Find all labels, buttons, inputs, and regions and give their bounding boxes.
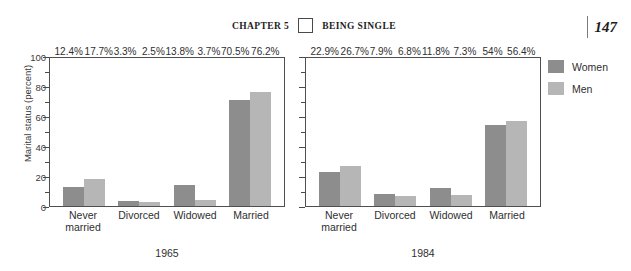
running-head: CHAPTER 5 BEING SINGLE 147 (0, 18, 631, 38)
bar-column: 3.7% (195, 58, 216, 206)
bar-women: 54% (485, 125, 506, 206)
folio-rule (587, 16, 588, 38)
bar-women: 13.8% (174, 185, 195, 206)
bar-value-label: 17.7% (85, 47, 113, 57)
y-tick-major (299, 207, 305, 208)
bar-value-label: 6.8% (398, 47, 421, 57)
chart-panel-1965: 12.4%17.7%3.3%2.5%13.8%3.7%70.5%76.2% (49, 57, 285, 207)
bar-men: 7.3% (451, 195, 472, 206)
bar-column: 7.9% (374, 58, 395, 206)
bar-women: 3.3% (118, 201, 139, 206)
category-label: Widowed (426, 209, 476, 243)
chapter-title: BEING SINGLE (322, 21, 396, 31)
bar-women: 12.4% (63, 187, 84, 206)
bar-value-label: 70.5% (221, 47, 249, 57)
year-label-1984: 1984 (305, 247, 541, 259)
bar-group: 11.8%7.3% (430, 58, 472, 206)
bar-column: 26.7% (340, 58, 361, 206)
bar-women: 70.5% (229, 100, 250, 206)
category-label: Nevermarried (314, 209, 364, 243)
bar-group: 12.4%17.7% (63, 58, 105, 206)
page-number: 147 (595, 19, 618, 36)
bar-value-label: 76.2% (251, 47, 279, 57)
bar-group: 70.5%76.2% (229, 58, 271, 206)
bar-column: 22.9% (319, 58, 340, 206)
category-labels-1965: NevermarriedDivorcedWidowedMarried (49, 209, 285, 243)
bar-women: 22.9% (319, 172, 340, 206)
bar-men: 26.7% (340, 166, 361, 206)
bar-column: 54% (485, 58, 506, 206)
bar-value-label: 2.5% (142, 47, 165, 57)
bar-women: 7.9% (374, 194, 395, 206)
bar-group: 3.3%2.5% (118, 58, 160, 206)
bar-column: 11.8% (430, 58, 451, 206)
chapter-label: CHAPTER 5 (232, 21, 289, 31)
bar-value-label: 22.9% (311, 47, 339, 57)
bar-value-label: 13.8% (166, 47, 194, 57)
bar-group: 22.9%26.7% (319, 58, 361, 206)
bar-group: 13.8%3.7% (174, 58, 216, 206)
year-label-1965: 1965 (49, 247, 285, 259)
bar-column: 2.5% (139, 58, 160, 206)
legend-label-men: Men (572, 83, 592, 95)
bar-group: 54%56.4% (485, 58, 527, 206)
category-label: Nevermarried (58, 209, 108, 243)
bar-value-label: 56.4% (507, 47, 535, 57)
bar-value-label: 54% (483, 47, 503, 57)
chart-legend: Women Men (548, 60, 608, 104)
folio: 147 (587, 16, 618, 38)
bar-value-label: 7.9% (370, 47, 393, 57)
bar-column: 56.4% (506, 58, 527, 206)
category-label: Divorced (370, 209, 420, 243)
plot-area-1984: 22.9%26.7%7.9%6.8%11.8%7.3%54%56.4% (306, 58, 540, 206)
bar-column: 17.7% (84, 58, 105, 206)
category-label: Married (226, 209, 276, 243)
bar-value-label: 3.7% (197, 47, 220, 57)
bar-column: 3.3% (118, 58, 139, 206)
bar-column: 12.4% (63, 58, 84, 206)
bar-value-label: 3.3% (114, 47, 137, 57)
legend-label-women: Women (572, 61, 608, 73)
bar-men: 2.5% (139, 202, 160, 206)
category-labels-1984: NevermarriedDivorcedWidowedMarried (305, 209, 541, 243)
bar-women: 11.8% (430, 188, 451, 206)
category-label: Widowed (170, 209, 220, 243)
bar-men: 6.8% (395, 196, 416, 206)
running-head-inner: CHAPTER 5 BEING SINGLE (232, 18, 396, 33)
bar-column: 7.3% (451, 58, 472, 206)
bar-value-label: 12.4% (55, 47, 83, 57)
legend-swatch-women (548, 60, 564, 73)
bar-column: 70.5% (229, 58, 250, 206)
bar-men: 76.2% (250, 92, 271, 206)
y-tick-major (43, 207, 49, 208)
category-label: Married (482, 209, 532, 243)
chart-panel-1984: 22.9%26.7%7.9%6.8%11.8%7.3%54%56.4% (305, 57, 541, 207)
legend-swatch-men (548, 82, 564, 95)
plot-area-1965: 12.4%17.7%3.3%2.5%13.8%3.7%70.5%76.2% (50, 58, 284, 206)
bar-value-label: 7.3% (453, 47, 476, 57)
bar-men: 17.7% (84, 179, 105, 206)
bar-value-label: 26.7% (341, 47, 369, 57)
bar-column: 13.8% (174, 58, 195, 206)
bar-value-label: 11.8% (422, 47, 450, 57)
legend-item-men: Men (548, 82, 608, 95)
bar-chart-figure: Marital status (percent) 020406080100 12… (0, 44, 631, 271)
bar-men: 56.4% (506, 121, 527, 206)
bar-group: 7.9%6.8% (374, 58, 416, 206)
bar-men: 3.7% (195, 200, 216, 206)
category-label: Divorced (114, 209, 164, 243)
bar-column: 76.2% (250, 58, 271, 206)
legend-item-women: Women (548, 60, 608, 73)
bar-column: 6.8% (395, 58, 416, 206)
ornament-square-icon (298, 18, 313, 33)
